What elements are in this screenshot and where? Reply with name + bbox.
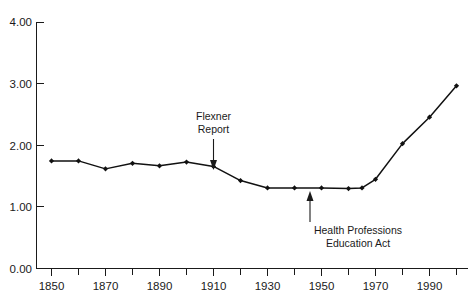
- x-tick-label: 1910: [201, 280, 227, 292]
- y-tick-label: 3.00: [10, 78, 32, 90]
- x-tick-label: 1930: [255, 280, 281, 292]
- y-tick-label: 2.00: [10, 140, 32, 152]
- annotation-hpea-line2: Education Act: [326, 237, 390, 249]
- x-tick-label: 1850: [39, 280, 65, 292]
- line-chart: 4.00 3.00 2.00 1.00 0.00: [0, 0, 471, 305]
- x-tick-label: 1970: [363, 280, 389, 292]
- x-tick-label: 1890: [147, 280, 173, 292]
- annotation-flexner-line2: Report: [198, 123, 230, 135]
- annotation-hpea-line1: Health Professions: [314, 224, 402, 236]
- x-tick-label: 1950: [309, 280, 335, 292]
- annotation-flexner-line1: Flexner: [196, 110, 232, 122]
- chart-container: 4.00 3.00 2.00 1.00 0.00: [0, 0, 471, 305]
- y-tick-label: 0.00: [10, 263, 32, 275]
- chart-background: [0, 0, 471, 305]
- y-tick-label: 1.00: [10, 201, 32, 213]
- x-tick-label: 1990: [417, 280, 443, 292]
- y-tick-label: 4.00: [10, 16, 32, 28]
- x-tick-label: 1870: [93, 280, 119, 292]
